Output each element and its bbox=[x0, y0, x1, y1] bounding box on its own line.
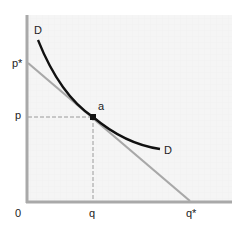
y-tick-p: p bbox=[15, 110, 21, 121]
origin-label: 0 bbox=[15, 208, 21, 219]
x-tick-qstar: q* bbox=[186, 208, 196, 219]
curve-label-start: D bbox=[34, 25, 42, 36]
plot-background bbox=[27, 15, 232, 202]
curve-label-end: D bbox=[164, 145, 172, 156]
point-label: a bbox=[98, 101, 104, 112]
x-tick-q: q bbox=[89, 208, 95, 219]
y-tick-pstar: p* bbox=[12, 58, 22, 69]
point-a-marker bbox=[90, 114, 96, 120]
